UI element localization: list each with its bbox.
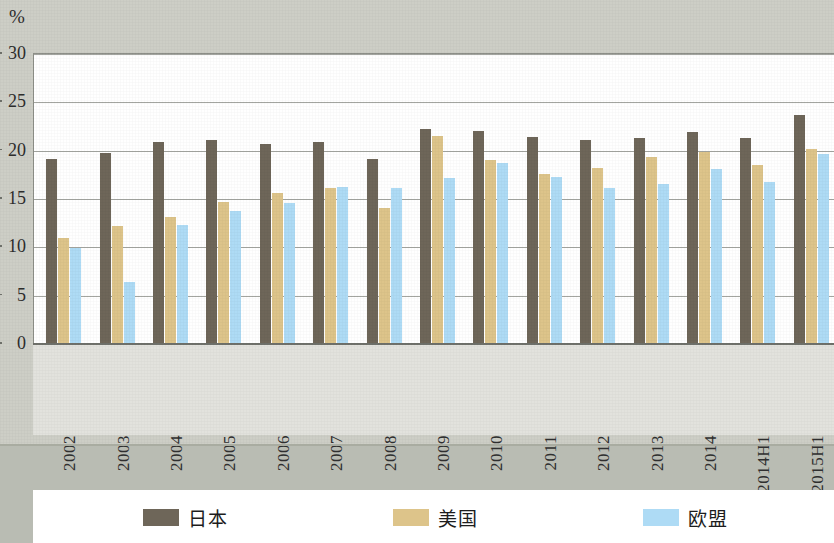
x-axis-tick-label: 2003: [114, 435, 134, 471]
x-axis-tick-label: 2012: [594, 435, 614, 471]
y-axis-tick-label: 0: [17, 333, 26, 354]
bar: [177, 225, 188, 343]
y-axis-tick-label: 30: [8, 43, 26, 64]
bar: [539, 174, 550, 343]
bar: [711, 169, 722, 343]
bar: [752, 165, 763, 343]
bar: [337, 187, 348, 343]
legend-item[interactable]: 欧盟: [643, 504, 728, 531]
y-axis-tick-label: 20: [8, 139, 26, 160]
bar-group: [367, 53, 402, 343]
bar: [432, 136, 443, 343]
bar-group: [313, 53, 348, 343]
bar-group: [153, 53, 188, 343]
bar: [818, 154, 829, 343]
bar: [634, 138, 645, 343]
bar: [206, 140, 217, 343]
y-axis-tick-mark: [0, 149, 2, 151]
bar: [218, 202, 229, 343]
legend-label: 日本: [188, 504, 228, 531]
y-axis-tick-mark: [0, 245, 2, 247]
y-axis-tick-label: 10: [8, 236, 26, 257]
bar: [46, 159, 57, 343]
bar-group: [687, 53, 722, 343]
y-axis-tick-label: 5: [17, 284, 26, 305]
bar: [699, 152, 710, 343]
bar: [551, 177, 562, 343]
legend-label: 美国: [438, 504, 478, 531]
chart-figure: % 051015202530 2002200320042005200620072…: [0, 0, 834, 543]
bar: [806, 149, 817, 343]
y-axis-tick-mark: [0, 342, 2, 344]
bar-group: [527, 53, 562, 343]
bar-group: [473, 53, 508, 343]
bar: [112, 226, 123, 343]
bar: [272, 193, 283, 343]
legend-swatch: [393, 509, 429, 526]
bar: [420, 129, 431, 343]
x-axis-tick-label: 2004: [167, 435, 187, 471]
bar: [473, 131, 484, 343]
bar: [764, 182, 775, 343]
bar: [100, 153, 111, 343]
x-axis-tick-label: 2006: [274, 435, 294, 471]
bar: [367, 159, 378, 343]
x-axis-tick-label: 2005: [220, 435, 240, 471]
legend-swatch: [143, 509, 179, 526]
x-axis-tick-label: 2002: [60, 435, 80, 471]
bar-group: [580, 53, 615, 343]
bar-group: [740, 53, 775, 343]
bar: [485, 160, 496, 343]
x-axis-tick-label: 2014: [701, 435, 721, 471]
bar: [592, 168, 603, 343]
bar: [740, 138, 751, 343]
bar: [646, 157, 657, 343]
legend-swatch: [643, 509, 679, 526]
x-axis-tick-label: 2009: [434, 435, 454, 471]
y-axis-tick-mark: [0, 197, 2, 199]
y-axis-tick-mark: [0, 294, 2, 296]
bar: [284, 203, 295, 343]
legend-label: 欧盟: [688, 504, 728, 531]
bar-group: [100, 53, 135, 343]
bar: [687, 132, 698, 343]
bar: [124, 282, 135, 343]
y-axis-unit-label: %: [9, 6, 25, 28]
bar: [379, 208, 390, 343]
bar-group: [634, 53, 669, 343]
x-axis-tick-label: 2011: [541, 435, 561, 470]
y-axis-tick-mark: [0, 52, 2, 54]
bar: [153, 142, 164, 343]
bar: [325, 188, 336, 343]
y-axis-tick-label: 25: [8, 91, 26, 112]
legend-item[interactable]: 日本: [143, 504, 228, 531]
bar: [391, 188, 402, 343]
y-axis-tick-mark: [0, 100, 2, 102]
legend-item[interactable]: 美国: [393, 504, 478, 531]
bar-group: [260, 53, 295, 343]
y-axis-tick-label: 15: [8, 188, 26, 209]
bar-group: [420, 53, 455, 343]
bar: [230, 211, 241, 343]
bar-group: [46, 53, 81, 343]
bar: [527, 137, 538, 343]
x-axis-label-band: 2002200320042005200620072008200920102011…: [33, 345, 834, 435]
bar: [444, 178, 455, 343]
chart-panel: % 051015202530 2002200320042005200620072…: [0, 0, 834, 446]
bar: [794, 115, 805, 343]
bar-group: [206, 53, 241, 343]
bar: [497, 163, 508, 343]
bar: [658, 184, 669, 344]
x-axis-tick-label: 2008: [381, 435, 401, 471]
bar-group: [794, 53, 829, 343]
x-axis-tick-label: 2013: [648, 435, 668, 471]
x-axis-tick-label: 2010: [487, 435, 507, 471]
bar: [58, 238, 69, 343]
x-axis-tick-label: 2015H1: [808, 435, 828, 493]
x-axis-tick-label: 2007: [327, 435, 347, 471]
bars-layer: [33, 53, 834, 343]
bar: [313, 142, 324, 343]
x-axis-tick-label: 2014H1: [754, 435, 774, 493]
bar: [604, 188, 615, 343]
bar: [580, 140, 591, 343]
